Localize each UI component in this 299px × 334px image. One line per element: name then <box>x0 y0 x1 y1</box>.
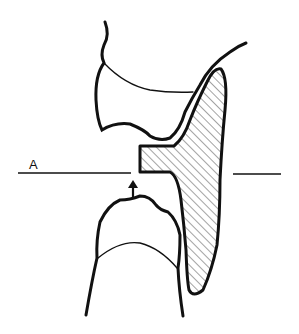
appliance <box>140 69 226 294</box>
dental-diagram: A <box>0 0 299 334</box>
plane-label: A <box>29 157 38 172</box>
lower-tooth <box>86 196 183 316</box>
